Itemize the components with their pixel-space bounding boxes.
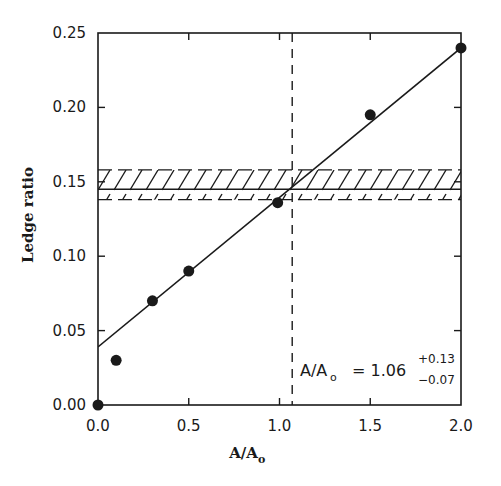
y-tick-label: 0.25	[53, 24, 86, 42]
x-tick-label: 1.0	[268, 417, 292, 435]
svg-text:= 1.06: = 1.06	[352, 361, 406, 380]
svg-text:o: o	[258, 453, 265, 466]
svg-text:o: o	[330, 371, 337, 384]
y-tick-label: 0.10	[53, 247, 86, 265]
y-axis-title: Ledge ratio	[19, 167, 37, 263]
y-tick-label: 0.00	[53, 396, 86, 414]
band-hatch	[98, 170, 461, 200]
svg-text:−0.07: −0.07	[418, 373, 455, 387]
x-tick-label: 2.0	[449, 417, 473, 435]
reference-band	[98, 170, 461, 200]
x-tick-label: 0.5	[177, 417, 201, 435]
data-point	[272, 197, 283, 208]
data-point	[456, 42, 467, 53]
annotation-minus-error: −0.07	[418, 373, 455, 387]
x-tick-label: 1.5	[358, 417, 382, 435]
ledge-ratio-chart: 0.00.51.01.52.0 0.000.050.100.150.200.25…	[0, 0, 501, 486]
x-axis-title-subscript: o	[258, 453, 265, 466]
data-point	[93, 400, 104, 411]
y-tick-label: 0.15	[53, 173, 86, 191]
data-point	[111, 355, 122, 366]
data-points	[93, 42, 467, 410]
data-point	[365, 109, 376, 120]
data-point	[147, 295, 158, 306]
annotation-ratio-subscript: o	[330, 371, 337, 384]
svg-text:A/A: A/A	[300, 361, 327, 380]
svg-text:A/A: A/A	[228, 444, 258, 462]
fit-annotation: A/A o = 1.06 +0.13 −0.07	[300, 352, 455, 387]
data-point	[183, 266, 194, 277]
annotation-value: = 1.06	[352, 361, 406, 380]
x-axis-title: A/A o	[228, 444, 265, 466]
y-tick-label: 0.05	[53, 322, 86, 340]
x-axis-ticks: 0.00.51.01.52.0	[86, 33, 473, 435]
annotation-ratio-label: A/A	[300, 361, 327, 380]
plot-frame	[98, 33, 461, 405]
svg-text:+0.13: +0.13	[418, 352, 455, 366]
annotation-plus-error: +0.13	[418, 352, 455, 366]
x-tick-label: 0.0	[86, 417, 110, 435]
y-tick-label: 0.20	[53, 98, 86, 116]
x-axis-title-main: A/A	[228, 444, 258, 462]
